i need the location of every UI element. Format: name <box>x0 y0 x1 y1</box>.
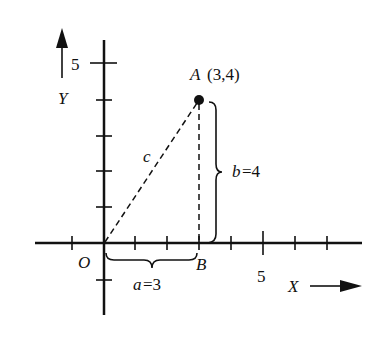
x-tick-label-5: 5 <box>257 267 266 286</box>
y-tick-label-5: 5 <box>71 55 80 74</box>
point-a <box>194 95 204 105</box>
point-a-label: A <box>189 65 201 84</box>
coordinate-diagram: 5 Y O B 5 X A (3,4) c b =4 a =3 <box>0 0 385 337</box>
brace-horizontal <box>106 253 197 268</box>
x-axis-label: X <box>287 277 299 296</box>
brace-a-var: a <box>133 275 142 294</box>
brace-b-var: b <box>232 162 241 181</box>
hypotenuse-label: c <box>143 147 151 166</box>
brace-b-eq: =4 <box>242 162 261 181</box>
brace-vertical <box>208 102 222 243</box>
y-direction-arrow-icon <box>56 28 68 78</box>
hypotenuse-c <box>105 100 199 242</box>
y-axis-label: Y <box>58 89 69 108</box>
brace-a-eq: =3 <box>143 275 161 294</box>
origin-label: O <box>78 253 90 272</box>
point-b-label: B <box>196 255 207 274</box>
x-direction-arrow-icon <box>310 280 362 292</box>
point-a-coords: (3,4) <box>207 65 240 84</box>
